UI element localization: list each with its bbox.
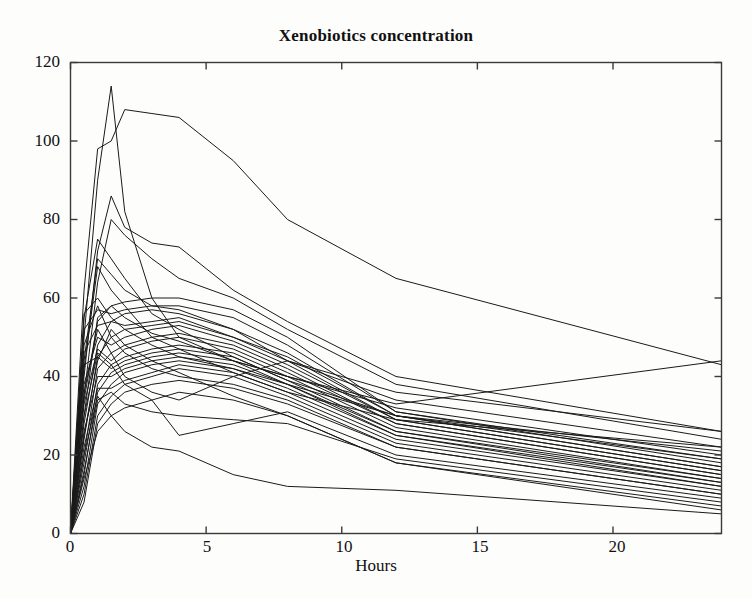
- series-line: [71, 259, 722, 534]
- series-line: [71, 86, 722, 533]
- xtick-label-0: 0: [50, 537, 90, 557]
- xtick-label-15: 15: [460, 537, 500, 557]
- ytick-label-120: 120: [8, 52, 60, 72]
- ytick-label-80: 80: [8, 209, 60, 229]
- chart-figure: Xenobiotics concentration 120 100 80 60 …: [0, 0, 752, 599]
- series-layer: [71, 86, 722, 533]
- xtick-label-20: 20: [597, 537, 637, 557]
- series-line: [71, 380, 722, 533]
- x-axis-label: Hours: [0, 556, 752, 576]
- series-line: [71, 318, 722, 534]
- series-line: [71, 196, 722, 534]
- xtick-label-5: 5: [187, 537, 227, 557]
- ytick-label-40: 40: [8, 366, 60, 386]
- xtick-label-10: 10: [324, 537, 364, 557]
- chart-title: Xenobiotics concentration: [0, 26, 752, 46]
- ytick-label-100: 100: [8, 131, 60, 151]
- series-line: [71, 325, 722, 533]
- spaghetti-plot-canvas: [0, 0, 752, 599]
- ytick-label-20: 20: [8, 445, 60, 465]
- ytick-label-60: 60: [8, 288, 60, 308]
